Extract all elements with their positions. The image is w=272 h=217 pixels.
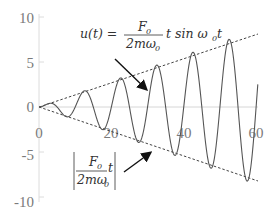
y-tick-label: -10 (14, 194, 34, 210)
y-tick-label: 5 (27, 55, 35, 71)
x-tick-label: 60 (249, 125, 264, 141)
y-tick-label: 0 (27, 99, 35, 115)
lower-envelope-line (39, 107, 258, 181)
y-tick-label: -5 (22, 147, 35, 163)
svg-text:0: 0 (155, 44, 160, 53)
svg-text:2mω: 2mω (76, 172, 107, 187)
svg-text:t: t (108, 160, 114, 175)
bottom-equation: F 0 2mω 0 t (74, 152, 115, 190)
svg-text:0: 0 (97, 162, 102, 171)
bottom-equation-arrow (124, 153, 150, 172)
x-tick-label: 40 (177, 125, 192, 141)
chart: 10 5 0 -5 -10 0 20 40 60 u(t) = F 0 2mω … (0, 0, 272, 217)
top-equation: u(t) = F 0 2mω 0 t sin ω 0 t (80, 19, 223, 53)
svg-text:u(t) =: u(t) = (80, 26, 117, 41)
y-tick-label: 10 (19, 10, 34, 26)
svg-text:t: t (217, 26, 223, 41)
svg-text:0: 0 (104, 180, 109, 189)
response-curve (39, 39, 258, 181)
svg-text:t sin ω: t sin ω (166, 26, 208, 41)
x-tick-label: 0 (35, 125, 43, 141)
top-equation-arrow (115, 59, 146, 89)
svg-text:2mω: 2mω (125, 36, 156, 51)
